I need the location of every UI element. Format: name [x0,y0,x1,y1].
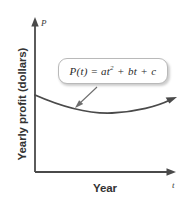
callout-leader-arrow [75,87,97,108]
profit-curve [35,95,177,113]
x-axis-arrowhead-icon [167,168,177,175]
callout-leader-line [79,87,97,104]
formula-callout-box: P(t) = at2 + bt + c [58,58,168,84]
y-axis-arrowhead-icon [31,17,38,27]
formula-term-b: bt [128,65,137,77]
quadratic-profit-diagram: P t [0,0,193,203]
formula-term-c: c [151,65,156,77]
formula-plus-2: + [137,65,151,77]
y-axis-variable-label: P [40,18,47,28]
y-axis-title: Yearly profit (dollars) [16,34,28,174]
formula-plus-1: + [114,65,128,77]
x-axis [35,168,176,175]
profit-curve-path [35,95,170,113]
x-axis-title: Year [35,182,175,194]
formula-prefix: P(t) = at [70,65,110,77]
formula-text: P(t) = at2 + bt + c [70,65,157,77]
